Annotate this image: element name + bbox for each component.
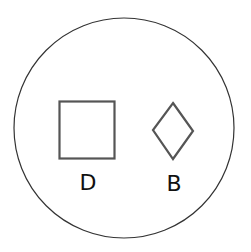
diamond-shape <box>153 103 193 159</box>
diamond-label: B <box>166 171 181 196</box>
square-label: D <box>80 170 97 195</box>
venn-diagram: D B <box>0 0 251 252</box>
set-circle <box>14 18 234 238</box>
square-shape <box>60 102 115 159</box>
